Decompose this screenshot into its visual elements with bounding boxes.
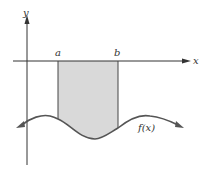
integral-diagram: y x a b f(x) <box>0 0 207 172</box>
y-axis-label: y <box>22 7 29 18</box>
curve-left-arrow-icon <box>16 121 25 128</box>
bound-a-label: a <box>55 47 61 58</box>
x-axis-label: x <box>193 55 199 66</box>
curve-right-arrow-icon <box>175 121 184 128</box>
function-label: f(x) <box>137 122 155 133</box>
shaded-region <box>58 61 118 139</box>
x-axis-arrow-icon <box>182 59 191 64</box>
bound-b-label: b <box>114 47 120 58</box>
